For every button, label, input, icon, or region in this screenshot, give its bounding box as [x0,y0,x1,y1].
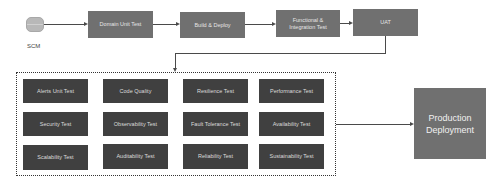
test-scalability: Scalability Test [23,145,88,170]
test-security: Security Test [23,112,88,136]
test-label: Performance Test [270,88,313,95]
test-reliability: Reliability Test [183,144,248,169]
test-code-quality: Code Quality [103,79,168,103]
connector-line [44,24,84,25]
test-label: Resilience Test [197,88,234,95]
test-label: Code Quality [120,88,152,95]
stage-domain-unit-test: Domain Unit Test [88,11,153,38]
test-auditability: Auditability Test [103,144,168,169]
test-resilience: Resilience Test [183,79,248,103]
stage-uat: UAT [353,9,418,36]
test-label: Alerts Unit Test [37,88,74,95]
stage-build-deploy: Build & Deploy [180,12,245,38]
stage-label: UAT [380,19,391,26]
stage-label: Domain Unit Test [100,21,142,28]
scm-label: SCM [27,43,40,49]
test-label: Reliability Test [198,153,233,160]
production-label: Production Deployment [420,112,480,136]
test-observability: Observability Test [103,112,168,136]
stage-label: Build & Deploy [194,22,230,29]
test-label: Scalability Test [37,154,73,161]
test-availability: Availability Test [259,112,324,136]
connector-line [153,24,176,25]
connector-line [336,124,410,125]
test-alerts-unit: Alerts Unit Test [23,79,88,103]
test-performance: Performance Test [259,79,324,103]
connector-line [175,53,386,54]
database-icon [26,17,44,32]
test-label: Sustainability Test [270,153,314,160]
test-label: Auditability Test [116,153,154,160]
test-label: Security Test [40,121,71,128]
test-fault-tolerance: Fault Tolerance Test [183,112,248,136]
connector-line [175,53,176,68]
test-label: Fault Tolerance Test [191,121,240,128]
connector-line [340,23,349,24]
stage-label: Functional & Integration Test [284,17,332,31]
production-deployment: Production Deployment [414,88,486,159]
test-label: Availability Test [273,121,310,128]
connector-line [385,36,386,53]
stage-functional-integration-test: Functional & Integration Test [276,10,340,37]
connector-line [245,24,272,25]
test-label: Observability Test [114,121,157,128]
test-sustainability: Sustainability Test [259,144,324,169]
